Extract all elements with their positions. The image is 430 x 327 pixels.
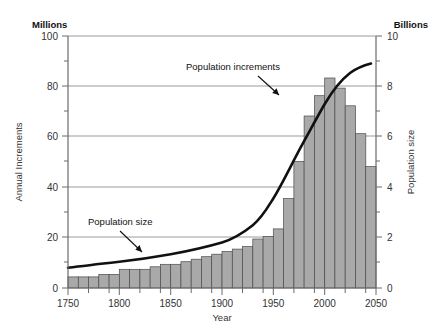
bar <box>356 134 366 288</box>
bar <box>89 277 99 288</box>
xtick-1900: 1900 <box>211 298 234 309</box>
bar <box>273 229 283 288</box>
bar <box>222 252 232 288</box>
left-tick-20: 20 <box>47 232 59 243</box>
bar <box>232 249 242 288</box>
left-tick-80: 80 <box>47 81 59 92</box>
right-unit-label: Billions <box>394 19 428 30</box>
left-tick-60: 60 <box>47 131 59 142</box>
bar <box>243 247 253 288</box>
xtick-1750: 1750 <box>57 298 80 309</box>
bar <box>191 259 201 288</box>
xtick-2000: 2000 <box>314 298 337 309</box>
bar <box>366 167 376 288</box>
bar <box>284 199 294 289</box>
right-axis-ticks: 10 8 6 4 2 0 <box>376 31 399 294</box>
bar <box>314 96 324 288</box>
bar <box>140 269 150 288</box>
xtick-1850: 1850 <box>160 298 183 309</box>
bars-group <box>68 78 376 288</box>
bar <box>263 237 273 289</box>
bar <box>171 264 181 288</box>
bar <box>119 269 129 288</box>
bar <box>325 78 335 288</box>
x-axis-ticks: 1750 1800 1850 1900 1950 2000 2050 <box>57 288 388 309</box>
bar <box>345 106 355 288</box>
left-tick-100: 100 <box>41 31 58 42</box>
bar <box>181 262 191 288</box>
bar <box>335 88 345 288</box>
left-axis-title: Annual Increments <box>13 122 24 201</box>
bar <box>212 254 222 288</box>
bar <box>130 269 140 288</box>
bar <box>109 274 119 288</box>
left-axis-ticks: 100 80 60 40 20 0 <box>41 31 68 294</box>
bar <box>78 277 88 288</box>
bar <box>304 116 314 288</box>
x-axis-title: Year <box>212 312 231 323</box>
xtick-2050: 2050 <box>365 298 388 309</box>
right-tick-8: 8 <box>387 81 393 92</box>
xtick-1950: 1950 <box>262 298 285 309</box>
bar <box>99 274 109 288</box>
right-tick-2: 2 <box>387 232 393 243</box>
annotation-population-increments: Population increments <box>186 61 280 72</box>
right-tick-4: 4 <box>387 182 393 193</box>
annotation-population-size: Population size <box>88 216 152 227</box>
right-tick-0: 0 <box>387 283 393 294</box>
bar <box>150 267 160 288</box>
bar <box>160 264 170 288</box>
right-tick-10: 10 <box>387 31 399 42</box>
bar <box>68 277 78 288</box>
bar <box>294 162 304 289</box>
xtick-1800: 1800 <box>108 298 131 309</box>
left-tick-40: 40 <box>47 182 59 193</box>
bar <box>253 239 263 288</box>
left-unit-label: Millions <box>32 19 67 30</box>
population-chart: Millions Billions <box>0 0 430 327</box>
right-tick-6: 6 <box>387 131 393 142</box>
right-axis-title: Population size <box>405 130 416 194</box>
bar <box>202 257 212 288</box>
chart-svg: Millions Billions <box>0 0 430 327</box>
left-tick-0: 0 <box>52 283 58 294</box>
